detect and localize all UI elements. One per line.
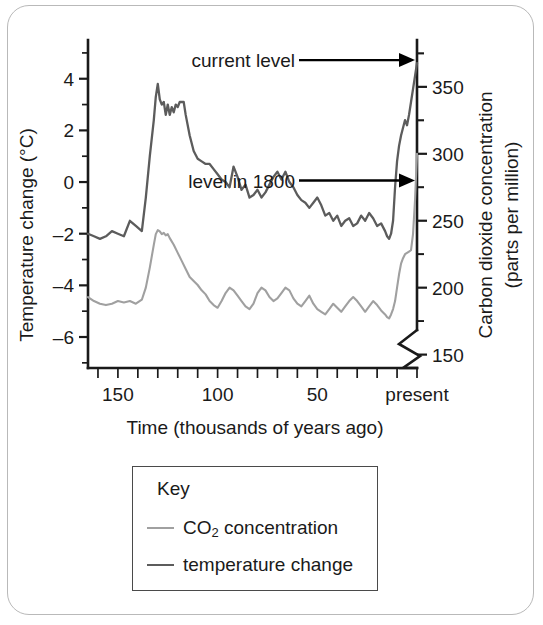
- series-line-temperature-change: [88, 63, 417, 239]
- right-tick-label: 350: [432, 77, 464, 98]
- right-tick-label: 250: [432, 211, 464, 232]
- legend-title: Key: [157, 478, 190, 500]
- right-axis-title-line1: Carbon dioxide concentration: [475, 91, 496, 338]
- right-tick-label: 200: [432, 278, 464, 299]
- left-tick-label: –4: [53, 275, 75, 296]
- annotation-label-current-level: current level: [192, 50, 296, 71]
- legend-swatch-co2-line: [147, 527, 174, 529]
- x-axis-title: Time (thousands of years ago): [127, 417, 384, 438]
- legend-item-co2-concentration: CO2 concentration: [147, 517, 338, 539]
- left-tick-label: 0: [63, 172, 74, 193]
- right-axis-title-line2: (parts per million): [501, 142, 522, 289]
- right-tick-label: 300: [432, 144, 464, 165]
- annotation-label-level-1800: level in 1800: [188, 171, 295, 192]
- legend-label-co2-concentration: CO2 concentration: [183, 517, 338, 539]
- figure-root: 420–2–4–635030025020015015010050presentT…: [0, 0, 543, 625]
- left-axis-title: Temperature change (°C): [16, 128, 37, 342]
- x-tick-label: 150: [102, 384, 134, 405]
- right-tick-label: 150: [432, 345, 464, 366]
- legend-label-temperature-change: temperature change: [183, 554, 353, 576]
- legend-key-box: Key CO2 concentration temperature change: [132, 466, 378, 591]
- x-tick-label: 50: [307, 384, 328, 405]
- annotation-arrowhead: [399, 53, 415, 67]
- legend-item-temperature-change: temperature change: [147, 554, 353, 576]
- legend-swatch-temperature-line: [147, 564, 174, 566]
- left-tick-label: –2: [53, 224, 74, 245]
- x-tick-label: 100: [202, 384, 234, 405]
- x-tick-label: present: [385, 384, 449, 405]
- left-tick-label: 2: [63, 120, 74, 141]
- right-axis-break-zigzag: [399, 330, 420, 368]
- left-tick-label: 4: [63, 69, 74, 90]
- left-tick-label: –6: [53, 327, 74, 348]
- annotation-arrowhead: [399, 174, 415, 188]
